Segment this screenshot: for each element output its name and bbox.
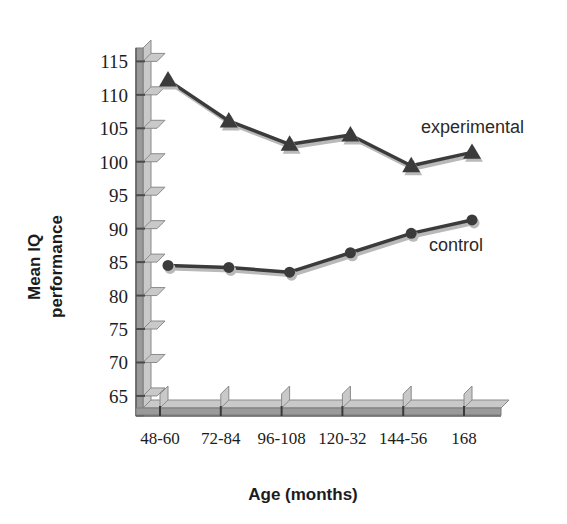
series-label-experimental: experimental [421, 117, 524, 137]
y-axis-title-line1: Mean IQ [25, 234, 44, 300]
y-tick-label: 65 [109, 386, 128, 407]
x-tick-label: 144-56 [379, 429, 427, 448]
y-tick-label: 115 [100, 51, 128, 72]
y-tick-label: 70 [109, 352, 128, 373]
y-tick-label: 90 [109, 219, 128, 240]
x-axis-title: Age (months) [248, 485, 358, 504]
data-point-control [467, 214, 478, 225]
data-point-experimental [159, 71, 177, 86]
x-tick-labels: 48-6072-8496-108120-32144-56168 [140, 429, 477, 448]
y-tick-label: 100 [100, 152, 129, 173]
y-tick-label: 75 [109, 319, 128, 340]
y-axis-title-line2: performance [47, 215, 66, 318]
chart-container: 65707580859095100105110115 48-6072-8496-… [0, 0, 567, 524]
data-point-experimental [463, 143, 481, 158]
y-tick-label: 95 [109, 185, 128, 206]
data-point-experimental [341, 126, 359, 141]
x-tick-label: 120-32 [318, 429, 366, 448]
series-label-control: control [429, 235, 483, 255]
iq-performance-line-chart: 65707580859095100105110115 48-6072-8496-… [0, 0, 567, 524]
x-tick-label: 48-60 [140, 429, 180, 448]
data-point-control [284, 267, 295, 278]
data-point-control [163, 260, 174, 271]
y-tick-label: 80 [109, 286, 128, 307]
y-tick-labels: 65707580859095100105110115 [100, 51, 129, 407]
y-tick-label: 110 [100, 85, 128, 106]
x-tick-label: 96-108 [258, 429, 306, 448]
y-tick-label: 105 [100, 118, 129, 139]
data-point-control [406, 228, 417, 239]
y-axis-title: Mean IQ performance [25, 215, 66, 318]
x-tick-label: 168 [451, 429, 477, 448]
data-point-control [223, 262, 234, 273]
y-tick-label: 85 [109, 252, 128, 273]
x-tick-label: 72-84 [201, 429, 241, 448]
data-point-control [345, 247, 356, 258]
x-axis [136, 400, 509, 416]
